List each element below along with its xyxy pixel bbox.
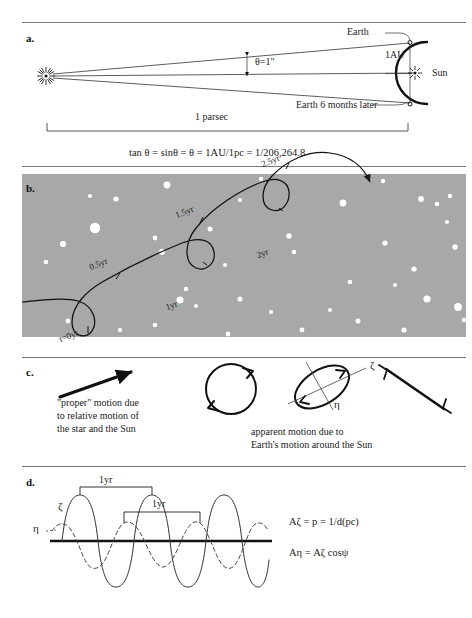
parsec-label: 1 parsec [195,111,228,124]
figure-artwork [0,0,472,618]
bracket-label-1yr-lower: 1yr [152,498,165,511]
panel-a-letter: a. [26,32,34,44]
earth-label: Earth [347,26,369,39]
ellipse-zeta-label: ζ [370,359,375,373]
sightline-earth-top [53,43,410,74]
one-au-label: 1AU [385,49,404,62]
panel-b-letter: b. [26,182,35,194]
equation-a-eta: Aη = Aζ cosψ [289,546,348,559]
starfield-background [22,174,466,337]
apparent-motion-ellipse-group [288,357,357,418]
sun-starburst-icon [408,66,422,80]
sight-lines [53,43,414,103]
bracket-1yr-lower [124,512,200,523]
panel-d-letter: d. [26,476,35,488]
star-starburst-icon [37,67,55,85]
parsec-scale-bar [47,123,408,131]
zeta-wave-label: ζ [58,500,63,514]
apparent-motion-ellipse [288,357,357,418]
parallax-figure: a. b. c. d. Earth Earth 6 months later S… [0,0,472,618]
earth-six-months-label: Earth 6 months later [296,99,377,112]
ellipse-eta-label: η [334,398,340,412]
ellipse-direction-arrowhead-bottom [300,396,309,404]
bracket-label-1yr-upper: 1yr [99,474,112,487]
panel-c-letter: c. [26,366,34,378]
eta-wave-label: η [33,522,39,536]
earth-leader-line [385,33,410,40]
sun-label: Sun [432,67,448,80]
equation-a-zeta: Aζ = p = 1/d(pc) [289,515,359,528]
eta-label-leader [46,530,56,531]
bracket-1yr-upper [80,487,152,495]
eta-wave-curve [52,522,268,569]
sightline-sun-axis [53,73,414,76]
edge-on-apparent-motion [379,365,451,413]
panel-b-artwork [22,153,466,337]
apparent-motion-caption: apparent motion due to Earth's motion ar… [251,425,451,451]
earth-marker-top [408,41,412,45]
ellipse-direction-arrowhead-top [336,370,345,378]
theta-label: θ=1" [255,56,275,69]
proper-motion-arrow [60,372,131,397]
proper-motion-caption: "proper" motion due to relative motion o… [57,396,217,435]
